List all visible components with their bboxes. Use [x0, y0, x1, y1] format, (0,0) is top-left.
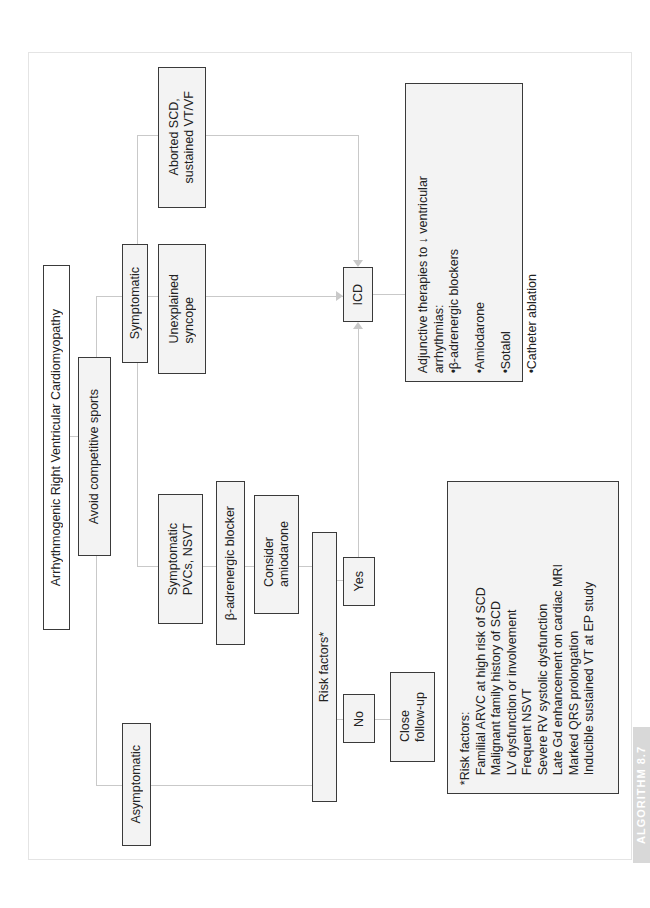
adjunctive-heading-1: Adjunctive therapies to ↓ ventricular — [416, 176, 432, 373]
connector-title-to-branch — [70, 436, 78, 437]
beta-blocker-label: β-adrenergic blocker — [223, 506, 238, 620]
asymptomatic-label: Asymptomatic — [129, 745, 144, 824]
connector-no-to-followup — [375, 719, 390, 720]
consider-amiodarone-box: Consideramiodarone — [254, 495, 299, 614]
connector-icd-to-adjunctive — [373, 294, 405, 295]
symptomatic-pvcs-label: SymptomaticPVCs, NSVT — [166, 523, 196, 595]
risk-factors-legend-box: *Risk factors: Familial ARVC at high ris… — [447, 481, 619, 794]
bullet-icon: • — [525, 369, 551, 373]
title-box: Arrhythmogenic Right Ventricular Cardiom… — [43, 265, 70, 630]
yes-box: Yes — [343, 557, 375, 606]
risk-legend-item: Familial ARVC at high risk of SCD — [474, 564, 490, 785]
connector-aborted-to-icd — [358, 135, 359, 261]
symptomatic-pvcs-box: SymptomaticPVCs, NSVT — [158, 494, 203, 624]
risk-legend-item: Frequent NSVT — [520, 564, 536, 785]
no-box: No — [343, 694, 375, 743]
unexplained-syncope-label: Unexplainedsyncope — [167, 274, 197, 344]
bullet-icon: • — [473, 369, 499, 373]
adjunctive-item: •Sotalol — [499, 176, 525, 373]
risk-legend-heading: *Risk factors: — [458, 564, 474, 785]
arrow-right-icon — [336, 291, 343, 301]
unexplained-syncope-box: Unexplainedsyncope — [158, 244, 206, 374]
avoid-sports-box: Avoid competitive sports — [78, 357, 111, 556]
adjunctive-therapies-box: Adjunctive therapies to ↓ ventricular ar… — [405, 83, 523, 382]
icd-box: ICD — [343, 267, 373, 322]
risk-legend-item: Malignant family history of SCD — [489, 564, 505, 785]
adjunctive-item: •β-adrenergic blockers — [447, 176, 473, 373]
close-followup-label: Closefollow-up — [398, 692, 428, 742]
beta-blocker-box: β-adrenergic blocker — [216, 481, 245, 645]
adjunctive-item: •Catheter ablation — [525, 176, 551, 373]
risk-legend-item: Severe RV systolic dysfunction — [536, 564, 552, 785]
adjunctive-therapies-text: Adjunctive therapies to ↓ ventricular ar… — [416, 176, 551, 373]
risk-factors-legend-text: *Risk factors: Familial ARVC at high ris… — [458, 564, 598, 785]
risk-factors-decision-box: Risk factors* — [312, 532, 337, 802]
aborted-scd-label: Aborted SCD,sustained VT/VF — [167, 91, 197, 183]
arrow-down-icon — [353, 260, 363, 267]
algorithm-tag: ALGORITHM 8.7 — [633, 727, 650, 863]
consider-amiodarone-label: Consideramiodarone — [262, 521, 292, 587]
adjunctive-item: •Amiodarone — [473, 176, 499, 373]
diagram-title: Arrhythmogenic Right Ventricular Cardiom… — [49, 309, 64, 586]
symptomatic-label: Symptomatic — [128, 267, 143, 339]
bullet-icon: • — [499, 369, 525, 373]
risk-legend-item: Inducible sustained VT at EP study — [582, 564, 598, 785]
arrow-up-icon — [353, 322, 363, 329]
no-label: No — [352, 711, 367, 727]
risk-legend-item: Marked QRS prolongation — [567, 564, 583, 785]
adjunctive-heading-2: arrhythmias: — [432, 176, 448, 373]
algorithm-tag-label: ALGORITHM 8.7 — [634, 746, 649, 844]
risk-factors-decision-label: Risk factors* — [317, 632, 332, 702]
risk-legend-item: LV dysfunction or involvement — [505, 564, 521, 785]
close-followup-box: Closefollow-up — [390, 672, 435, 762]
connector-yes-to-icd — [358, 328, 359, 557]
symptomatic-box: Symptomatic — [122, 244, 148, 363]
bullet-icon: • — [447, 369, 473, 373]
aborted-scd-box: Aborted SCD,sustained VT/VF — [158, 67, 206, 208]
asymptomatic-box: Asymptomatic — [122, 723, 151, 846]
risk-legend-item: Late Gd enhancement on cardiac MRI — [551, 564, 567, 785]
avoid-sports-label: Avoid competitive sports — [87, 389, 102, 524]
icd-label: ICD — [351, 284, 366, 306]
yes-label: Yes — [352, 571, 367, 591]
